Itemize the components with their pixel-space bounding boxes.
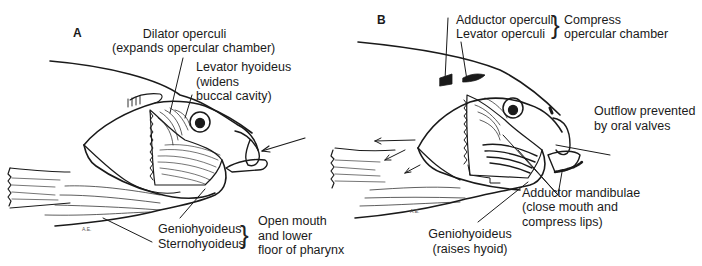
- label-compress-2: opercular chamber: [564, 27, 668, 41]
- label-open-mouth-2: and lower: [258, 229, 312, 243]
- brace-a: }: [240, 222, 249, 248]
- leader-sternohyoideus: [103, 218, 152, 242]
- leader-levator-operculi: [461, 42, 467, 80]
- label-outflow-2: by oral valves: [594, 119, 670, 133]
- brace-b: }: [551, 12, 560, 38]
- fish-a-drawing: [8, 61, 305, 226]
- leader-dilator: [170, 58, 183, 113]
- leader-levator-hyoideus: [185, 95, 192, 118]
- label-levator-operculi: Levator operculi: [456, 27, 545, 41]
- label-compress-1: Compress: [564, 13, 621, 27]
- label-levator-hyoideus: Levator hyoideus: [196, 60, 291, 74]
- signature-a: A.E.: [82, 226, 91, 232]
- label-dilator-operculi: Dilator operculi: [112, 27, 257, 41]
- leader-geniohyoideus-a: [180, 189, 205, 218]
- label-geniohyoideus-b-desc: (raises hyoid): [425, 242, 515, 256]
- label-geniohyoideus-b: Geniohyoideus: [425, 227, 515, 241]
- label-levator-hyoideus-desc-2: buccal cavity): [196, 89, 272, 103]
- label-outflow-1: Outflow prevented: [594, 104, 695, 118]
- leader-outflow: [556, 145, 610, 155]
- label-open-mouth-1: Open mouth: [258, 214, 327, 228]
- panel-b-letter: B: [377, 13, 386, 27]
- label-levator-hyoideus-desc-1: (widens: [196, 75, 239, 89]
- label-open-mouth-3: floor of pharynx: [258, 243, 344, 257]
- label-sternohyoideus: Sternohyoideus: [158, 237, 245, 251]
- label-dilator-operculi-desc: (expands opercular chamber): [112, 41, 257, 55]
- leader-adductor-operculi: [445, 18, 448, 80]
- label-geniohyoideus-a: Geniohyoideus: [158, 222, 241, 236]
- panel-a-letter: A: [73, 26, 82, 40]
- label-adductor-mandibulae-desc-1: (close mouth and: [522, 200, 618, 214]
- label-adductor-mandibulae: Adductor mandibulae: [522, 186, 640, 200]
- label-adductor-operculi: Adductor operculi: [456, 13, 553, 27]
- signature-b: A.E.: [410, 208, 419, 214]
- label-adductor-mandibulae-desc-2: compress lips): [522, 215, 603, 229]
